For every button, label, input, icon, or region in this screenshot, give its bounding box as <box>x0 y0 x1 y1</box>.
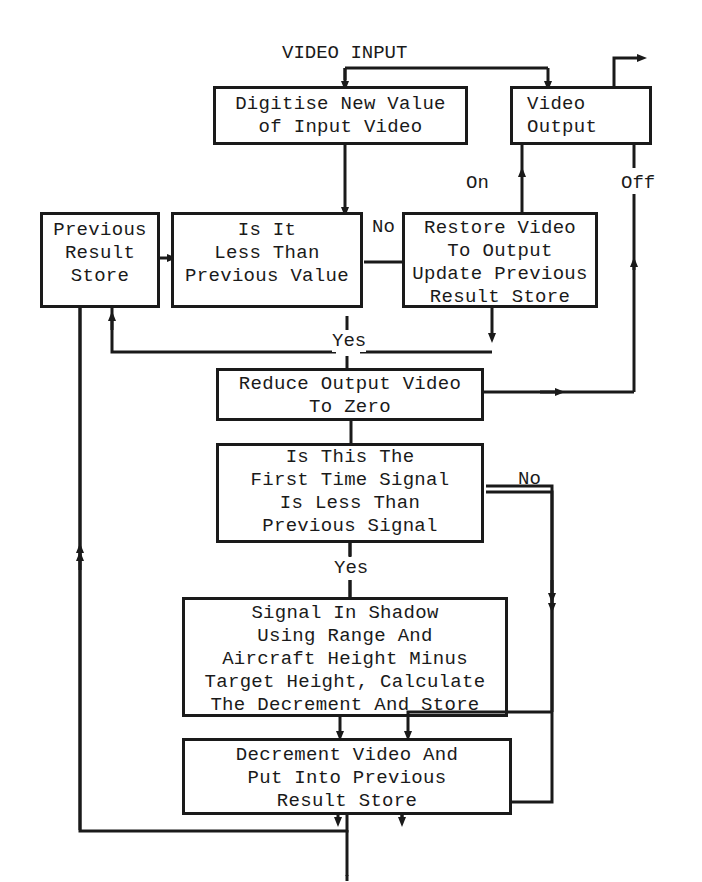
video-output-text-line-2: Output <box>527 116 597 139</box>
previous-result-store-node: Previous Result Store <box>40 212 160 308</box>
compare-no-label: No <box>372 216 395 238</box>
reduce-text-line-2: To Zero <box>309 396 391 419</box>
reduce-text-line-1: Reduce Output Video <box>239 373 461 396</box>
compare-text-line-1: Is It <box>238 219 297 242</box>
shadow-text-line-5: The Decrement And Store <box>210 694 479 717</box>
video-output-text-line-1: Video <box>527 93 586 116</box>
first-time-text-line-3: Is Less Than <box>280 492 420 515</box>
video-output-node: Video Output <box>510 86 652 145</box>
first-time-decision: Is This The First Time Signal Is Less Th… <box>216 443 484 543</box>
first-time-text-line-2: First Time Signal <box>251 469 450 492</box>
signal-in-shadow-node: Signal In Shadow Using Range And Aircraf… <box>182 597 508 717</box>
shadow-text-line-1: Signal In Shadow <box>251 602 438 625</box>
decrement-text-line-2: Put Into Previous <box>248 767 447 790</box>
first-time-text-line-4: Previous Signal <box>262 515 438 538</box>
restore-text-line-4: Result Store <box>430 286 570 309</box>
previous-store-text-line-2: Result <box>65 242 135 265</box>
restore-text-line-3: Update Previous <box>412 263 588 286</box>
shadow-text-line-4: Target Height, Calculate <box>205 671 486 694</box>
decrement-video-node: Decrement Video And Put Into Previous Re… <box>182 738 512 815</box>
compare-text-line-2: Less Than <box>214 242 319 265</box>
previous-store-text-line-3: Store <box>71 265 130 288</box>
flowchart-canvas: VIDEO INPUT Digitise New Value of Input … <box>0 0 702 882</box>
off-edge-label: Off <box>621 172 655 194</box>
decrement-text-line-1: Decrement Video And <box>236 744 458 767</box>
on-edge-label: On <box>466 172 489 194</box>
compare-yes-label: Yes <box>332 330 366 352</box>
first-time-text-line-1: Is This The <box>286 446 415 469</box>
restore-video-node: Restore Video To Output Update Previous … <box>402 212 598 308</box>
digitise-text-line-1: Digitise New Value <box>235 93 446 116</box>
first-time-no-label: No <box>518 468 541 490</box>
video-input-label: VIDEO INPUT <box>282 42 407 64</box>
restore-text-line-2: To Output <box>447 240 552 263</box>
reduce-output-node: Reduce Output Video To Zero <box>216 368 484 421</box>
shadow-text-line-3: Aircraft Height Minus <box>222 648 468 671</box>
previous-store-text-line-1: Previous <box>53 219 147 242</box>
compare-text-line-3: Previous Value <box>185 265 349 288</box>
less-than-previous-decision: Is It Less Than Previous Value <box>171 212 363 308</box>
decrement-text-line-3: Result Store <box>277 790 417 813</box>
digitise-node: Digitise New Value of Input Video <box>213 86 468 145</box>
restore-text-line-1: Restore Video <box>424 217 576 240</box>
shadow-text-line-2: Using Range And <box>257 625 433 648</box>
first-time-yes-label: Yes <box>334 557 368 579</box>
digitise-text-line-2: of Input Video <box>259 116 423 139</box>
